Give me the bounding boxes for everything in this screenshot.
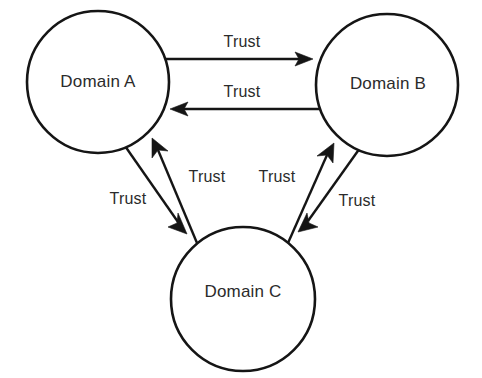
edge-a-to-c-line [125,146,178,222]
edge-label-a-to-b: Trust [224,33,261,50]
edge-b-to-c-line [308,148,360,221]
edge-b-to-a [170,102,320,116]
edge-label-c-to-b: Trust [259,168,296,185]
edge-b-to-c [298,148,360,232]
node-domain-c-label: Domain C [204,282,281,301]
node-domain-a-label: Domain A [60,72,136,91]
edge-label-b-to-c: Trust [339,192,376,209]
node-domain-c[interactable]: Domain C [171,227,315,371]
edge-a-to-c-arrowhead-icon [168,213,187,234]
edge-label-a-to-c: Trust [110,190,147,207]
trust-diagram-canvas: Domain A Domain B Domain C Trust Trust T… [0,0,482,378]
edge-a-to-b [163,52,313,66]
node-domain-b-label: Domain B [350,74,426,93]
edge-label-c-to-a: Trust [189,168,226,185]
edge-label-b-to-a: Trust [224,83,261,100]
domain-trust-diagram: Domain A Domain B Domain C Trust Trust T… [0,0,482,378]
node-domain-a[interactable]: Domain A [27,11,169,153]
node-domain-b[interactable]: Domain B [316,14,458,156]
